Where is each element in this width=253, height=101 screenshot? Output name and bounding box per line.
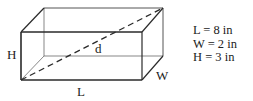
legend-length: L = 8 in [193, 24, 237, 38]
height-label: H [7, 47, 16, 62]
legend-width: W = 2 in [193, 38, 237, 52]
dimension-legend: L = 8 in W = 2 in H = 3 in [193, 24, 237, 65]
legend-height: H = 3 in [193, 51, 237, 65]
diagonal-label: d [95, 41, 102, 56]
width-label: W [156, 68, 169, 83]
length-label: L [77, 84, 85, 99]
prism-diagram: H L W d L = 8 in W = 2 in H = 3 in [0, 0, 253, 101]
